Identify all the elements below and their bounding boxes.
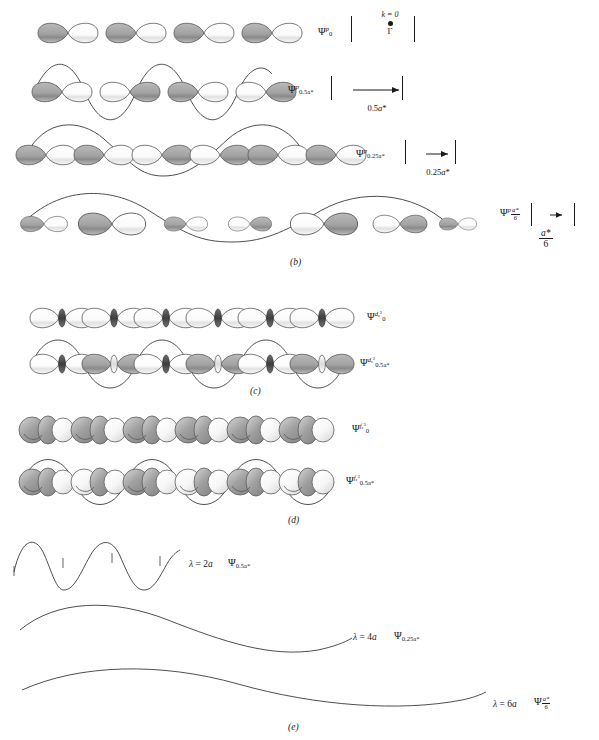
- panel-label-c: (c): [250, 386, 261, 396]
- psi-subscript-f05: 0.5a*: [360, 479, 374, 486]
- bz-right-bar-row4: [574, 203, 575, 226]
- psi-label-wave-6a: Ψa*6: [534, 696, 550, 711]
- measure-label-a-over-6: a*6: [539, 228, 553, 251]
- psi-subscript-p0: 0: [329, 30, 332, 37]
- figure-canvas: [0, 0, 599, 740]
- row-p-k025: [16, 125, 366, 176]
- psi-subscript-d05: 0.5a*: [375, 361, 389, 368]
- bz-right-bar-row1: [414, 16, 415, 42]
- row-p-k0: [38, 23, 302, 43]
- row-f-k0: [19, 416, 334, 444]
- wave-lambda-6a: [22, 669, 486, 706]
- bz-left-bar-row4: [531, 203, 532, 226]
- psi-subscript-d0: 0: [382, 315, 385, 322]
- psi-label-wave-4a: Ψ0.25a*: [394, 631, 420, 642]
- psi-label-d-k0: Ψdz20: [367, 311, 385, 323]
- psi-label-p-k05: Ψp0.5a*: [288, 84, 314, 96]
- arrow-0.5a-star: [351, 84, 407, 96]
- psi-label-f-k0: Ψfz30: [352, 423, 369, 435]
- psi-subscript-wave-4a: 0.25a*: [402, 635, 420, 642]
- panel-label-b: (b): [290, 257, 301, 267]
- psi-label-p-k0: Ψp0: [318, 26, 332, 38]
- kpoint-gamma-marker: k = 0 Γ: [370, 10, 410, 36]
- panel-label-e: (e): [288, 722, 299, 732]
- row-p-k05: [32, 64, 296, 120]
- psi-subscript-wave-2a: 0.5a*: [236, 562, 250, 569]
- psi-label-p-k025: Ψp0.25a*: [356, 148, 385, 160]
- row-d-k0: [30, 308, 354, 328]
- measure-label-0.5a: 0.5a*: [327, 103, 427, 113]
- psi-label-p-ka6: Ψpa*6: [500, 207, 520, 222]
- bz-right-bar-row2: [402, 76, 403, 100]
- row-p-ka6: [21, 193, 477, 242]
- wave-lambda-4a: [20, 605, 352, 652]
- psi-subscript-p025: 0.25a*: [367, 152, 385, 159]
- gamma-dot-icon: [388, 21, 393, 26]
- psi-label-d-k05: Ψdz20.5a*: [360, 357, 390, 369]
- k-value-label: k = 0: [382, 10, 399, 19]
- wave-label-lambda-6a: λ = 6a: [493, 700, 517, 710]
- gamma-symbol-label: Γ: [388, 26, 393, 36]
- bz-right-bar-row3: [455, 140, 456, 164]
- orbital-bloch-figure: Ψp0 k = 0 Γ Ψp0.5a* 0.5a* Ψp0.25a* 0.25a…: [0, 0, 599, 740]
- measure-label-0.25a: 0.25a*: [388, 167, 488, 177]
- arrow-a-over-6: [548, 209, 570, 221]
- bz-left-bar-row1: [351, 16, 352, 42]
- psi-subscript-p05: 0.5a*: [299, 88, 313, 95]
- psi-label-f-k05: Ψfz30.5a*: [346, 475, 374, 487]
- bz-left-bar-row2: [331, 76, 332, 100]
- panel-label-d: (d): [288, 515, 299, 525]
- wave-label-lambda-4a: λ = 4a: [353, 633, 377, 643]
- arrow-0.25a-star: [424, 148, 456, 160]
- psi-label-wave-2a: Ψ0.5a*: [228, 558, 250, 569]
- row-f-k05: [19, 460, 334, 505]
- psi-subscript-f0: 0: [366, 427, 369, 434]
- psi-subscript-a-over-6: a*6: [511, 207, 520, 222]
- wave-lambda-2a: [14, 542, 180, 590]
- wave-label-lambda-2a: λ = 2a: [189, 560, 213, 570]
- row-d-k05: [30, 340, 354, 388]
- bz-left-bar-row3: [405, 140, 406, 164]
- psi-subscript-wave-a6: a*6: [542, 696, 551, 711]
